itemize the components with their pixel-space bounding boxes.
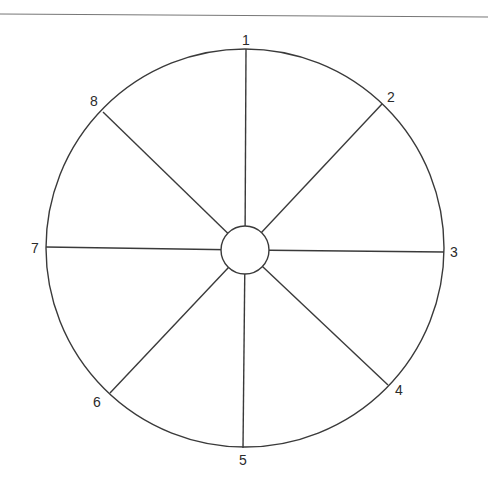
spoke-1 bbox=[245, 49, 246, 250]
spoke-4 bbox=[245, 250, 388, 385]
segment-label-6: 6 bbox=[93, 394, 101, 410]
spoke-7 bbox=[46, 247, 245, 250]
top-rule-divider bbox=[0, 14, 488, 17]
segmented-wheel-diagram: 12345678 bbox=[0, 0, 488, 482]
spoke-2 bbox=[245, 104, 382, 250]
spoke-5 bbox=[243, 250, 245, 448]
hub-circle bbox=[221, 226, 269, 274]
segment-label-2: 2 bbox=[387, 89, 395, 105]
spoke-3 bbox=[245, 250, 444, 252]
segment-label-7: 7 bbox=[31, 240, 39, 256]
segment-label-5: 5 bbox=[239, 452, 247, 468]
segment-label-8: 8 bbox=[90, 93, 98, 109]
segment-label-1: 1 bbox=[242, 32, 250, 48]
segment-label-3: 3 bbox=[450, 244, 458, 260]
spoke-8 bbox=[103, 112, 245, 250]
segment-label-4: 4 bbox=[395, 382, 403, 398]
spoke-6 bbox=[110, 250, 245, 393]
